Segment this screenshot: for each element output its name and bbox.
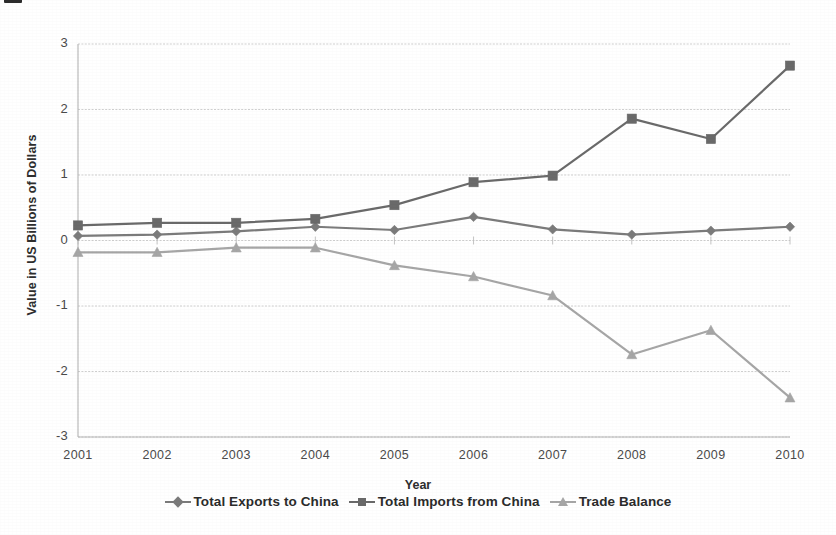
x-tick-label: 2003 bbox=[206, 448, 266, 462]
legend-item[interactable]: Trade Balance bbox=[550, 494, 672, 509]
data-point bbox=[706, 325, 716, 334]
data-point bbox=[469, 178, 478, 187]
series-total-exports-to-china bbox=[73, 212, 794, 240]
chart-legend: Total Exports to ChinaTotal Imports from… bbox=[0, 494, 836, 509]
legend-label: Total Imports from China bbox=[378, 494, 540, 509]
legend-label: Total Exports to China bbox=[194, 494, 339, 509]
data-point bbox=[469, 212, 478, 221]
data-point bbox=[706, 226, 715, 235]
legend-marker-diamond-icon bbox=[165, 496, 191, 508]
x-tick-label: 2010 bbox=[760, 448, 820, 462]
series-total-imports-from-china bbox=[73, 61, 794, 230]
data-point bbox=[152, 230, 161, 239]
legend-marker-square-icon bbox=[349, 496, 375, 508]
data-point bbox=[785, 61, 794, 70]
series-line bbox=[78, 217, 790, 236]
data-point bbox=[153, 218, 162, 227]
series-line bbox=[78, 248, 790, 398]
x-tick-label: 2009 bbox=[681, 448, 741, 462]
data-point bbox=[548, 171, 557, 180]
legend-marker-triangle-icon bbox=[550, 496, 576, 508]
data-point bbox=[390, 201, 399, 210]
data-point bbox=[73, 231, 82, 240]
series-line bbox=[78, 66, 790, 226]
legend-item[interactable]: Total Exports to China bbox=[165, 494, 339, 509]
chart-figure: Value in US Billions of Dollars 3210-1-2… bbox=[0, 0, 836, 535]
data-point bbox=[548, 225, 557, 234]
x-tick-label: 2001 bbox=[48, 448, 108, 462]
x-tick-label: 2002 bbox=[127, 448, 187, 462]
data-point bbox=[627, 230, 636, 239]
data-point bbox=[706, 134, 715, 143]
legend-label: Trade Balance bbox=[579, 494, 672, 509]
x-tick-label: 2007 bbox=[523, 448, 583, 462]
data-point bbox=[73, 221, 82, 230]
x-tick-label: 2008 bbox=[602, 448, 662, 462]
x-tick-label: 2005 bbox=[364, 448, 424, 462]
data-point bbox=[232, 227, 241, 236]
legend-item[interactable]: Total Imports from China bbox=[349, 494, 540, 509]
data-point bbox=[627, 114, 636, 123]
data-point bbox=[311, 214, 320, 223]
data-point bbox=[390, 225, 399, 234]
x-axis-title: Year bbox=[0, 478, 836, 492]
x-tick-label: 2004 bbox=[285, 448, 345, 462]
series-trade-balance bbox=[73, 243, 795, 402]
data-point bbox=[785, 222, 794, 231]
data-point bbox=[232, 218, 241, 227]
x-tick-label: 2006 bbox=[444, 448, 504, 462]
